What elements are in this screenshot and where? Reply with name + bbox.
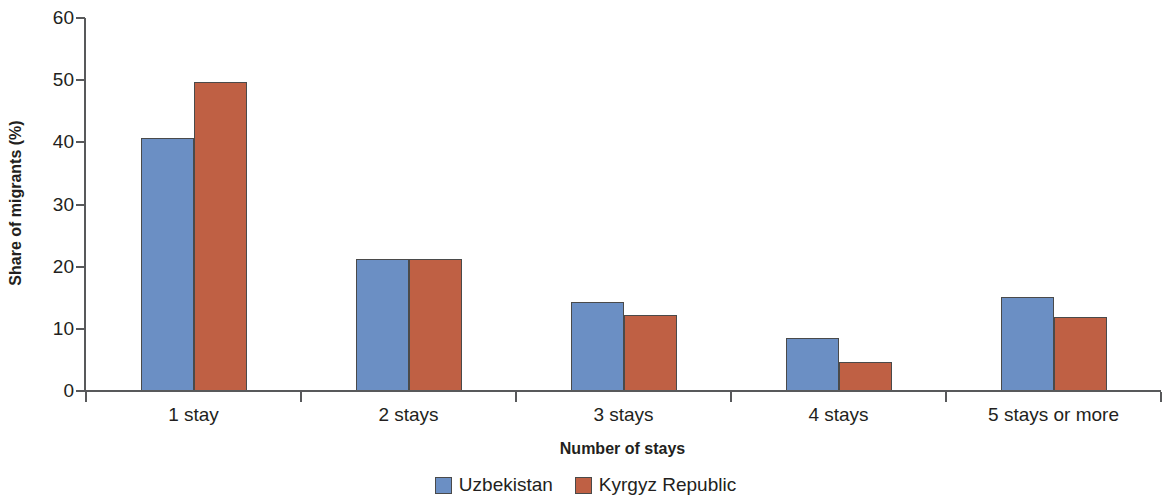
legend-swatch-uzbekistan bbox=[435, 477, 452, 494]
legend-label: Kyrgyz Republic bbox=[599, 474, 736, 496]
x-axis-tick-mark bbox=[515, 392, 517, 402]
bar-kyrgyz-republic-1-stay bbox=[194, 82, 247, 391]
y-axis-tick-mark bbox=[76, 141, 85, 143]
y-axis-tick-label: 30 bbox=[34, 195, 74, 214]
bar-kyrgyz-republic-5-stays-or-more bbox=[1054, 317, 1107, 391]
legend-swatch-kyrgyz-republic bbox=[575, 477, 592, 494]
y-axis-tick-labels: 0102030405060 bbox=[26, 0, 74, 504]
y-axis-tick-label: 50 bbox=[34, 70, 74, 89]
y-axis-tick-mark bbox=[76, 204, 85, 206]
y-axis-tick-mark bbox=[76, 266, 85, 268]
x-axis-category-label: 2 stays bbox=[301, 404, 516, 426]
y-axis-tick-label: 40 bbox=[34, 132, 74, 151]
bar-uzbekistan-5-stays-or-more bbox=[1001, 297, 1054, 391]
legend-item-kyrgyz-republic[interactable]: Kyrgyz Republic bbox=[575, 474, 736, 496]
bar-uzbekistan-4-stays bbox=[786, 338, 839, 391]
bar-chart: Share of migrants (%) 0102030405060 1 st… bbox=[0, 0, 1171, 504]
x-axis-tick-mark bbox=[85, 392, 87, 402]
bar-uzbekistan-3-stays bbox=[571, 302, 624, 391]
x-axis-category-label: 5 stays or more bbox=[946, 404, 1161, 426]
chart-legend: UzbekistanKyrgyz Republic bbox=[0, 474, 1171, 496]
bar-kyrgyz-republic-4-stays bbox=[839, 362, 892, 391]
y-axis-tick-mark bbox=[76, 328, 85, 330]
bar-kyrgyz-republic-2-stays bbox=[409, 259, 462, 391]
y-axis-tick-label: 60 bbox=[34, 8, 74, 27]
x-axis-category-label: 3 stays bbox=[516, 404, 731, 426]
x-axis-tick-mark bbox=[1160, 392, 1162, 402]
x-axis-title: Number of stays bbox=[84, 440, 1161, 458]
y-axis-tick-label: 0 bbox=[34, 381, 74, 400]
bar-uzbekistan-1-stay bbox=[141, 138, 194, 391]
x-axis-line bbox=[84, 390, 1161, 392]
legend-label: Uzbekistan bbox=[459, 474, 553, 496]
y-axis-tick-label: 20 bbox=[34, 257, 74, 276]
x-axis-tick-mark bbox=[300, 392, 302, 402]
x-axis-tick-mark bbox=[730, 392, 732, 402]
bar-uzbekistan-2-stays bbox=[356, 259, 409, 391]
y-axis-tick-mark bbox=[76, 79, 85, 81]
y-axis-tick-label: 10 bbox=[34, 319, 74, 338]
y-axis-title-label: Share of migrants (%) bbox=[7, 120, 25, 285]
x-axis-category-label: 1 stay bbox=[86, 404, 301, 426]
legend-item-uzbekistan[interactable]: Uzbekistan bbox=[435, 474, 553, 496]
y-axis-tick-mark bbox=[76, 17, 85, 19]
bar-kyrgyz-republic-3-stays bbox=[624, 315, 677, 391]
x-axis-tick-mark bbox=[945, 392, 947, 402]
x-axis-category-label: 4 stays bbox=[731, 404, 946, 426]
